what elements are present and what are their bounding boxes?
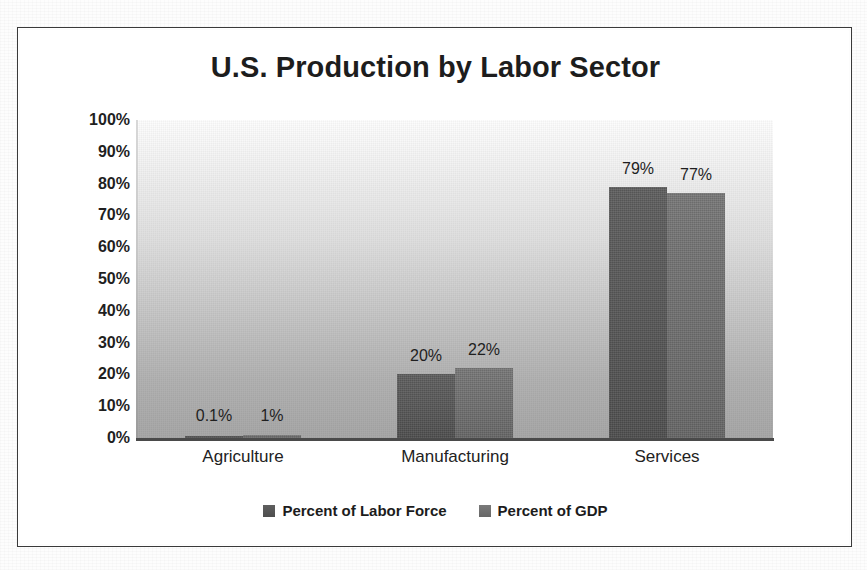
bar-data-label: 1% <box>243 408 301 424</box>
legend-swatch-icon <box>263 505 275 517</box>
y-tick-label: 30% <box>64 335 130 351</box>
bar-grain-texture <box>667 193 725 438</box>
bar-grain-texture <box>455 368 513 438</box>
bar-data-label: 77% <box>667 167 725 183</box>
y-tick-label: 20% <box>64 366 130 382</box>
legend-label: Percent of Labor Force <box>282 502 446 519</box>
chart-title: U.S. Production by Labor Sector <box>18 51 853 84</box>
bar <box>455 368 513 438</box>
legend-entry[interactable]: Percent of GDP <box>479 502 608 519</box>
legend-swatch-icon <box>479 505 491 517</box>
y-tick-label: 10% <box>64 398 130 414</box>
y-tick-label: 80% <box>64 176 130 192</box>
bar <box>397 374 455 438</box>
category-label: Manufacturing <box>349 448 561 465</box>
chart-legend: Percent of Labor ForcePercent of GDP <box>18 502 853 519</box>
chart-frame: U.S. Production by Labor Sector 100%90%8… <box>17 27 852 547</box>
category-label: Services <box>561 448 773 465</box>
y-tick-label: 40% <box>64 303 130 319</box>
legend-entry[interactable]: Percent of Labor Force <box>263 502 446 519</box>
bar <box>667 193 725 438</box>
bar <box>609 187 667 438</box>
bar-grain-texture <box>609 187 667 438</box>
legend-label: Percent of GDP <box>498 502 608 519</box>
y-tick-label: 60% <box>64 239 130 255</box>
category-label: Agriculture <box>137 448 349 465</box>
y-axis-line <box>136 120 138 440</box>
bar-data-label: 0.1% <box>185 408 243 424</box>
x-axis-line <box>136 438 774 441</box>
y-tick-label: 0% <box>64 430 130 446</box>
y-tick-label: 70% <box>64 207 130 223</box>
bar-data-label: 79% <box>609 161 667 177</box>
bar-data-label: 22% <box>455 342 513 358</box>
y-tick-label: 50% <box>64 271 130 287</box>
bar-grain-texture <box>397 374 455 438</box>
y-tick-label: 100% <box>64 112 130 128</box>
bar-data-label: 20% <box>397 348 455 364</box>
scanned-page: U.S. Production by Labor Sector 100%90%8… <box>0 0 867 570</box>
y-tick-label: 90% <box>64 144 130 160</box>
